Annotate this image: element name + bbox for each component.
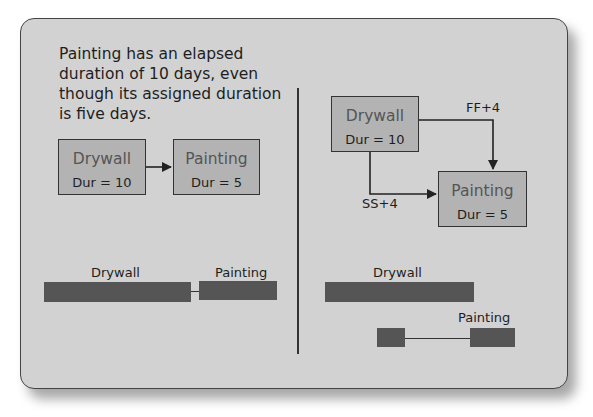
arrow-connectors xyxy=(0,0,593,417)
right-painting-bar-start xyxy=(377,328,405,347)
left-gantt-painting-label: Painting xyxy=(215,265,267,280)
left-link-line xyxy=(191,291,199,292)
ff-arrow-icon xyxy=(419,120,493,169)
left-gantt-drywall-label: Drywall xyxy=(91,265,140,280)
right-gantt-drywall-label: Drywall xyxy=(373,265,422,280)
right-painting-bar-end xyxy=(470,328,515,347)
right-split-line xyxy=(405,338,470,339)
left-drywall-bar xyxy=(44,282,191,302)
right-drywall-bar xyxy=(325,282,474,302)
left-painting-bar xyxy=(199,281,277,300)
right-gantt-painting-label: Painting xyxy=(458,310,510,325)
ss-arrow-icon xyxy=(370,152,436,194)
